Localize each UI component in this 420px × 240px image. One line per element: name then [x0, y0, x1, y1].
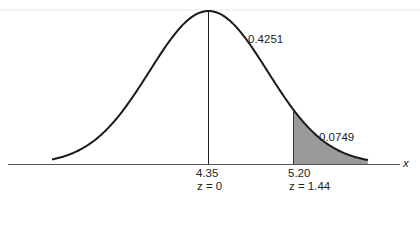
x-axis-label: x: [403, 158, 409, 170]
cutoff-value-label: 5.20: [288, 168, 310, 180]
area-center-label: 0.4251: [248, 34, 283, 46]
mean-value-label: 4.35: [196, 168, 218, 180]
area-tail-label: 0.0749: [319, 132, 354, 144]
cutoff-z-label: z = 1.44: [289, 181, 330, 193]
mean-z-label: z = 0: [197, 181, 222, 193]
